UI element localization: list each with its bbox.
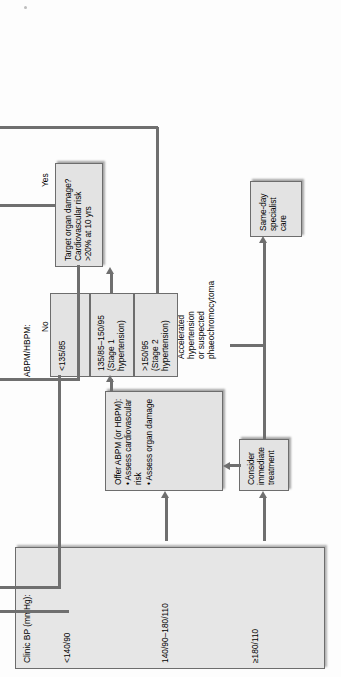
flowchart-root: Clinic BP (mmHg): <140/90 140/90–180/110…: [0, 0, 341, 677]
accelerated-line3: or suspected: [196, 311, 206, 359]
target-organ-line3: >20% at 10 yrs: [83, 206, 93, 261]
same-day-line1: Same-day: [258, 194, 268, 231]
connector-abpm-lt13585-v: [0, 587, 60, 590]
clinic-bp-row-0: <140/90: [62, 632, 72, 663]
abpm-row-2: >150/95 (Stage 2 hypertension): [134, 293, 178, 377]
connector-consider-to-offerabpm-v: [229, 465, 241, 468]
connector-stage2-v: [0, 127, 158, 130]
arrowhead-offer-abpm-from-consider: [223, 463, 230, 471]
same-day-line2: specialist: [268, 198, 278, 231]
connector-sameday-branch-v: [230, 345, 264, 348]
abpm-row-0-label: <135/85: [57, 340, 67, 371]
connector-stage2-h: [156, 127, 159, 293]
same-day-specialist-care-box: Same-day specialist care: [250, 181, 302, 237]
connector-stage1-to-target-h: [110, 273, 113, 293]
arrowhead-same-day-specialist: [259, 236, 267, 243]
consider-immediate-line2: immediate: [256, 447, 266, 485]
offer-abpm-title: Offer ABPM (or HBPM):: [113, 397, 123, 485]
offer-abpm-bullet-2: • Assess organ damage: [144, 397, 154, 485]
arrowhead-offer-abpm: [161, 491, 169, 498]
accelerated-line4: phaeochromocytoma: [206, 281, 216, 359]
connector-target-no-h: [77, 265, 80, 381]
clinic-bp-header: Clinic BP (mmHg):: [22, 594, 32, 663]
figure-canvas: Clinic BP (mmHg): <140/90 140/90–180/110…: [0, 0, 341, 677]
abpm-row-2-line2: (Stage 2: [150, 339, 160, 371]
abpm-row-1-line2: (Stage 1: [106, 339, 116, 371]
abpm-row-2-line3: hypertension): [160, 320, 170, 371]
clinic-bp-row-2: ≥180/110: [250, 629, 260, 663]
offer-abpm-box: Offer ABPM (or HBPM): • Assess cardiovas…: [105, 391, 223, 491]
edge-label-yes: Yes: [40, 173, 50, 187]
abpm-row-1: 135/85–150/95 (Stage 1 hypertension): [90, 293, 134, 377]
accelerated-hypertension-label: Accelerated hypertension or suspected ph…: [176, 281, 216, 359]
consider-immediate-treatment-box: Consider immediate treatment: [239, 439, 289, 491]
abpm-row-0: <135/85: [50, 293, 90, 377]
abpm-row-2-label: >150/95: [140, 340, 150, 371]
target-organ-damage-box: Target organ damage? Cardiovascular risk…: [55, 163, 103, 267]
same-day-line3: care: [278, 215, 288, 231]
clinic-bp-row-1: 140/90–180/110: [160, 603, 170, 663]
consider-immediate-line1: Consider: [246, 452, 256, 485]
accelerated-line2: hypertension: [186, 311, 196, 359]
connector-consider-to-sameday-h: [263, 241, 266, 439]
connector-clinic-lt140-vertical: [0, 611, 69, 614]
abpm-row-1-label: 135/85–150/95: [96, 315, 106, 371]
target-organ-line2: Cardiovascular risk: [73, 192, 83, 261]
connector-abpm-lt13585-h: [58, 375, 61, 589]
connector-clinic-high-h: [263, 497, 266, 541]
offer-abpm-bullet-1: • Assess cardiovascular: [123, 397, 133, 485]
connector-target-yes-v: [0, 205, 56, 208]
arrowhead-consider-immediate: [259, 491, 267, 498]
abpm-group-header: ABPM/HBPM:: [22, 324, 32, 377]
page-corner-mark: [24, 6, 27, 9]
offer-abpm-bullet-1-cont: risk: [133, 397, 143, 485]
connector-clinic-mid-h: [165, 497, 168, 541]
target-organ-line1: Target organ damage?: [63, 179, 73, 261]
arrowhead-abpm-group: [106, 375, 114, 382]
consider-immediate-line3: treatment: [266, 451, 276, 485]
edge-label-no: No: [40, 321, 50, 332]
abpm-row-1-line3: hypertension): [116, 320, 126, 371]
arrowhead-target-organ: [106, 267, 114, 274]
connector-target-no-v: [0, 379, 79, 382]
